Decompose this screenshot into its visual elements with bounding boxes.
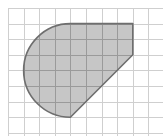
geometry-figure [0,0,163,136]
grid-diagram: Shaded figure on square grid: semicircle… [0,0,163,136]
